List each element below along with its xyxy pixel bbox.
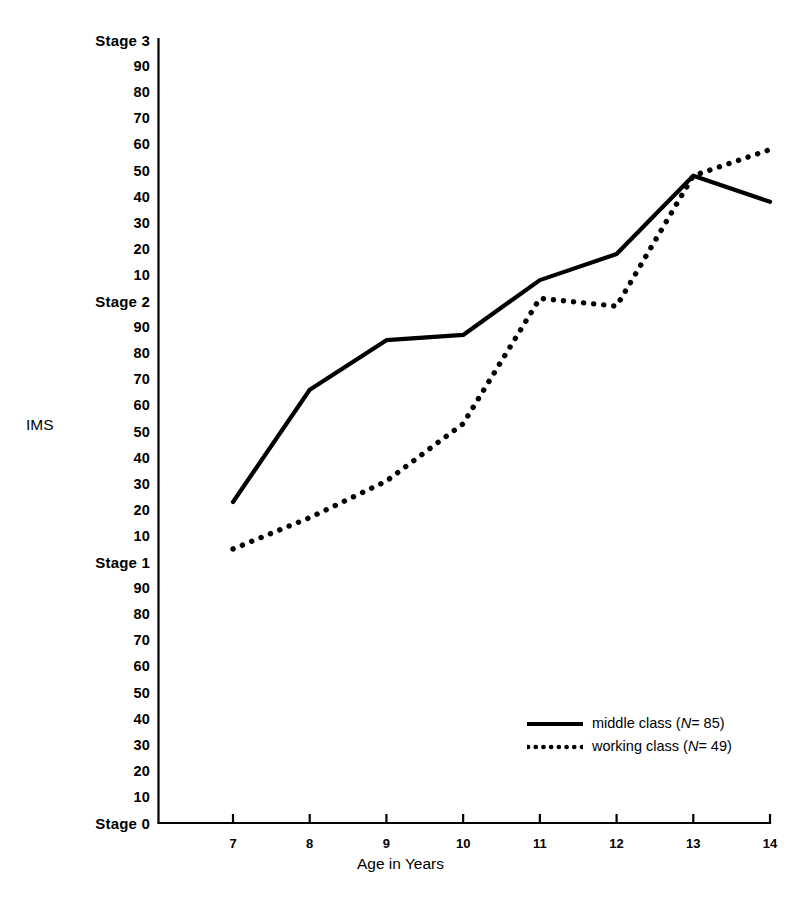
y-axis-tick-label: 50 — [0, 164, 150, 179]
y-axis-title: IMS — [26, 417, 54, 433]
x-axis-tick-label: 8 — [280, 837, 340, 850]
y-axis-tick-label: 90 — [0, 59, 150, 74]
y-axis-tick-label: 70 — [0, 111, 150, 126]
y-axis-stage-label: Stage 2 — [0, 294, 150, 309]
y-axis-tick-label: 90 — [0, 581, 150, 596]
y-axis-tick-label: 70 — [0, 633, 150, 648]
x-axis-tick-label: 7 — [203, 837, 263, 850]
x-axis-tick-label: 11 — [510, 837, 570, 850]
y-axis-tick-label: 30 — [0, 216, 150, 231]
solid-line-icon — [527, 718, 583, 730]
chart-container: Stage 0102030405060708090Stage 110203040… — [0, 0, 801, 899]
legend-item: working class (N= 49) — [527, 735, 777, 758]
y-axis-tick-label: 20 — [0, 503, 150, 518]
y-axis-tick-label: 60 — [0, 398, 150, 413]
y-axis-tick-label: 60 — [0, 659, 150, 674]
y-axis-tick-label: 40 — [0, 712, 150, 727]
y-axis-tick-label: 50 — [0, 686, 150, 701]
y-axis-stage-label: Stage 1 — [0, 555, 150, 570]
y-axis-tick-label: 70 — [0, 372, 150, 387]
y-axis-tick-label: 10 — [0, 529, 150, 544]
dotted-line-icon — [527, 741, 583, 753]
y-axis-stage-label: Stage 0 — [0, 816, 150, 831]
x-axis-tick-label: 13 — [663, 837, 723, 850]
legend-item-label: middle class (N= 85) — [592, 716, 725, 731]
y-axis-tick-label: 50 — [0, 425, 150, 440]
y-axis-tick-label: 20 — [0, 242, 150, 257]
y-axis-tick-label: 40 — [0, 190, 150, 205]
y-axis-tick-label: 80 — [0, 346, 150, 361]
y-axis-tick-label: 80 — [0, 85, 150, 100]
series-line-working-class — [233, 150, 770, 549]
y-axis-tick-label: 20 — [0, 764, 150, 779]
y-axis-tick-label: 40 — [0, 451, 150, 466]
series-line-middle-class — [233, 176, 770, 502]
y-axis-tick-label: 10 — [0, 790, 150, 805]
x-axis-tick-label: 10 — [433, 837, 493, 850]
y-axis-tick-label: 30 — [0, 738, 150, 753]
x-axis-tick-label: 9 — [356, 837, 416, 850]
y-axis-stage-label: Stage 3 — [0, 33, 150, 48]
y-axis-tick-label: 30 — [0, 477, 150, 492]
y-axis-tick-label: 60 — [0, 137, 150, 152]
legend-item: middle class (N= 85) — [527, 712, 777, 735]
chart-legend: middle class (N= 85)working class (N= 49… — [527, 712, 777, 758]
data-series-layer — [233, 150, 770, 549]
x-axis-tick-label: 14 — [740, 837, 800, 850]
x-axis-tick-label: 12 — [587, 837, 647, 850]
x-axis-title: Age in Years — [0, 856, 801, 872]
y-axis-tick-label: 80 — [0, 607, 150, 622]
legend-item-label: working class (N= 49) — [592, 739, 732, 754]
y-axis-tick-label: 90 — [0, 320, 150, 335]
y-axis-tick-label: 10 — [0, 268, 150, 283]
